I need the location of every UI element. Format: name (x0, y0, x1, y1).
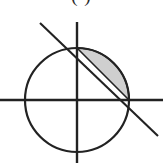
figure-canvas (0, 0, 163, 163)
diagonal-chord-line (40, 23, 158, 136)
geometry-figure: ( ) (0, 0, 163, 163)
